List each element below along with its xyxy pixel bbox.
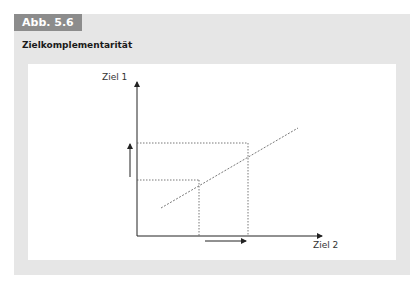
x-axis-label: Ziel 2 (313, 240, 338, 250)
complementarity-line (161, 128, 298, 208)
y-axis-label: Ziel 1 (102, 72, 127, 82)
diagram: Ziel 1 Ziel 2 (0, 0, 420, 283)
